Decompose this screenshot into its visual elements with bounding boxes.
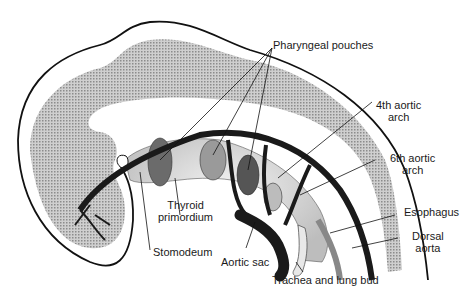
label-dorsal-aorta-line1: Dorsal (412, 230, 444, 242)
label-dorsal-aorta-line2: aorta (412, 242, 444, 254)
label-6th-aortic-arch: 6th aortic arch (390, 152, 435, 176)
label-esophagus: Esophagus (404, 206, 459, 218)
label-6th-aortic-arch-line2: arch (390, 164, 435, 176)
label-trachea-lung-bud: Trachea and lung bud (272, 274, 379, 286)
label-4th-aortic-arch: 4th aortic arch (376, 99, 421, 123)
label-6th-aortic-arch-line1: 6th aortic (390, 152, 435, 164)
label-thyroid-primordium-line2: primordium (158, 211, 213, 223)
label-pharyngeal-pouches: Pharyngeal pouches (273, 39, 373, 51)
label-thyroid-primordium-line1: Thyroid (158, 199, 213, 211)
pouch-3 (237, 155, 259, 195)
pouch-2 (200, 140, 226, 180)
label-aortic-sac: Aortic sac (221, 256, 269, 268)
embryo-diagram (0, 0, 467, 294)
label-dorsal-aorta: Dorsal aorta (412, 230, 444, 254)
label-4th-aortic-arch-line2: arch (376, 111, 421, 123)
label-4th-aortic-arch-line1: 4th aortic (376, 99, 421, 111)
label-stomodeum: Stomodeum (153, 246, 212, 258)
label-thyroid-primordium: Thyroid primordium (158, 199, 213, 223)
